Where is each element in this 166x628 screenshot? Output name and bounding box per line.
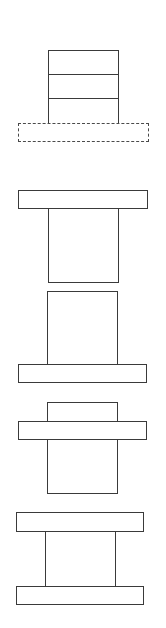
fig-5-bottom-bar xyxy=(16,586,144,605)
fig-3-bottom-bar xyxy=(18,364,147,383)
fig-4-body xyxy=(47,439,118,494)
fig-1-divider-1 xyxy=(48,74,119,75)
fig-3-body xyxy=(47,291,118,365)
fig-2-top-bar xyxy=(18,190,148,209)
fig-1-base xyxy=(18,123,149,142)
fig-1-divider-2 xyxy=(48,98,119,99)
fig-4-top-cap xyxy=(47,402,118,422)
fig-4-middle-bar xyxy=(18,421,147,440)
fig-5-body xyxy=(45,531,116,587)
fig-5-top-bar xyxy=(16,512,144,532)
fig-1-stack xyxy=(48,50,119,124)
fig-2-body xyxy=(48,208,119,283)
